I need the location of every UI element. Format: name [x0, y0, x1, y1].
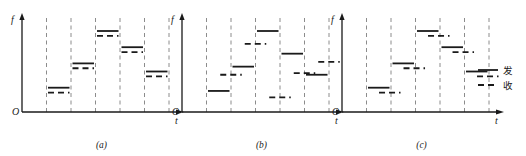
f-axis-label: f	[11, 14, 15, 25]
f-axis-arrowhead	[339, 13, 344, 20]
legend-label-receive: 收	[503, 80, 513, 91]
f-axis-label: f	[331, 14, 335, 25]
panel-caption: (a)	[96, 140, 107, 151]
series-receive	[48, 36, 168, 93]
figure-canvas: ftO(a)ftO(b)ftO(c)发收	[0, 0, 526, 156]
series-transmit	[368, 31, 488, 88]
t-axis-arrowhead	[496, 109, 504, 114]
f-axis-arrowhead	[179, 13, 184, 20]
series-transmit	[208, 31, 328, 91]
origin-label: O	[172, 106, 179, 117]
t-axis-label: t	[495, 115, 498, 126]
panel-caption: (b)	[256, 140, 267, 151]
panel-c: ftO(c)	[331, 13, 504, 151]
frequency-hopping-figure: ftO(a)ftO(b)ftO(c)发收	[0, 0, 526, 156]
series-transmit	[48, 31, 168, 88]
legend: 发收	[478, 65, 513, 91]
panel-b: ftO(b)	[171, 13, 344, 151]
panel-a: ftO(a)	[11, 13, 184, 151]
panel-caption: (c)	[416, 140, 427, 151]
origin-label: O	[12, 106, 19, 117]
f-axis-label: f	[171, 14, 175, 25]
legend-label-transmit: 发	[503, 65, 513, 76]
origin-label: O	[332, 106, 339, 117]
f-axis-arrowhead	[19, 13, 24, 20]
